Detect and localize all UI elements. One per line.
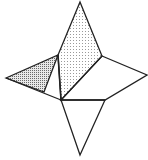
diagram-canvas — [0, 0, 148, 160]
left-shaded-triangle-face — [6, 55, 58, 92]
star-net-diagram — [0, 0, 148, 160]
bottom-triangle-face — [61, 100, 105, 155]
upper-kite-face — [58, 2, 102, 100]
